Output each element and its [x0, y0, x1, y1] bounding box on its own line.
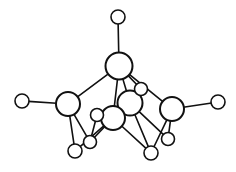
atom-a8-node-center-front [101, 106, 125, 130]
atom-a3-terminal-left [15, 94, 29, 108]
bond-a5-a6 [183, 103, 211, 107]
bond-a1-a2 [118, 23, 119, 53]
atom-a13-terminal-bottom-mid [144, 146, 158, 160]
bond-a2-a7 [123, 78, 127, 91]
bond-a6-a14 [169, 120, 171, 133]
atom-a11-terminal-bottom-left [68, 144, 82, 158]
atom-a14-terminal-lower-right [162, 133, 175, 146]
bond-a4-a12 [74, 114, 87, 137]
atom-a1-terminal-top [111, 10, 125, 24]
atom-a10-terminal-center-left [91, 109, 104, 122]
atom-a2-apex-center [106, 53, 133, 80]
atom-a5-terminal-right [211, 95, 225, 109]
molecular-structure-figure [0, 0, 236, 172]
bond-a3-a4 [28, 101, 56, 103]
bond-a8-a13 [121, 126, 146, 149]
atom-layer [15, 10, 225, 160]
atom-a9-terminal-center-upper [135, 83, 148, 96]
bond-layer [28, 23, 211, 148]
bond-a2-a4 [77, 74, 109, 97]
atom-a12-terminal-lower-left [84, 136, 97, 149]
molecule-diagram [0, 0, 236, 172]
atom-a4-node-left [56, 92, 80, 116]
bond-a4-a11 [70, 115, 74, 144]
atom-a6-node-right [160, 97, 184, 121]
